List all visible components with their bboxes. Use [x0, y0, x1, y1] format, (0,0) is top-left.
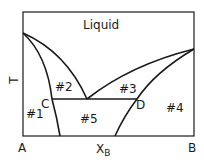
axis-end-b: B — [188, 142, 196, 154]
right-liquidus-curve — [87, 49, 194, 99]
x-axis-label-main: X — [96, 142, 104, 156]
region-label-5: #5 — [80, 113, 98, 125]
y-axis-label: T — [8, 76, 20, 83]
axis-end-a: A — [18, 142, 26, 154]
region-label-3: #3 — [119, 83, 137, 95]
liquid-label: Liquid — [83, 19, 119, 31]
point-c-label: C — [41, 98, 49, 110]
x-axis-label: XB — [96, 143, 110, 155]
region-label-4: #4 — [166, 102, 184, 114]
region-label-2: #2 — [55, 81, 73, 93]
point-d-label: D — [136, 99, 145, 111]
x-axis-label-subscript: B — [104, 148, 110, 158]
